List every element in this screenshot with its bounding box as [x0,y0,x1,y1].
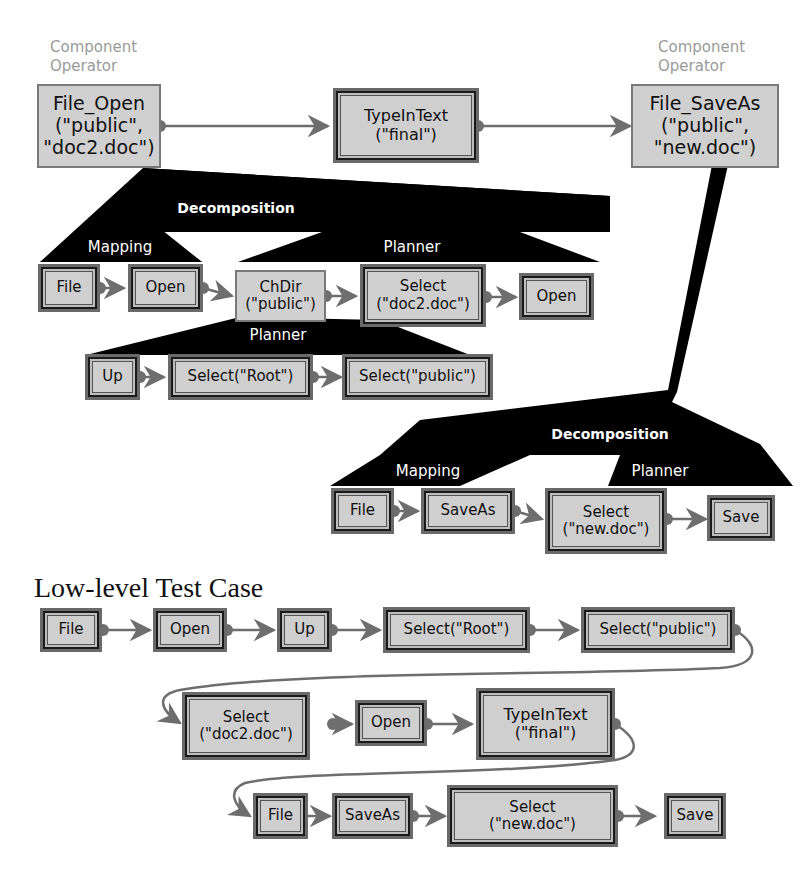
node-label: Select("Root") [404,621,510,638]
node-select-root[interactable]: Select("Root") [168,354,313,400]
node-label: Select("public") [359,368,476,385]
node-label: File [268,807,293,824]
component-operator-label-left: Component Operator [50,38,160,76]
node-file-mapping[interactable]: File [38,264,100,312]
node-file-saveas[interactable]: File_SaveAs ("public", "new.doc") [631,84,779,168]
low-level-test-case-title: Low-level Test Case [34,572,263,604]
node-label: Select("public") [600,621,717,638]
node-label: File [56,279,81,296]
node-label: Select ("new.doc") [489,799,576,834]
mapping-label-2: Mapping [396,462,460,480]
node-label: Up [102,368,123,385]
ll-node-file[interactable]: File [40,608,102,652]
ll-node-save[interactable]: Save [664,793,726,839]
ll-node-select-newdoc[interactable]: Select ("new.doc") [447,785,618,847]
node-label: File_SaveAs ("public", "new.doc") [650,93,761,159]
ll-node-open[interactable]: Open [153,608,227,652]
node-label: Select ("doc2.doc") [199,709,293,744]
node-file-mapping-2[interactable]: File [331,488,394,534]
mapping-label-1: Mapping [88,238,152,256]
node-saveas-mapping[interactable]: SaveAs [421,488,515,534]
node-label: Open [170,621,210,638]
node-open-planner[interactable]: Open [519,273,594,320]
node-select-newdoc[interactable]: Select ("new.doc") [545,488,667,554]
ll-node-saveas[interactable]: SaveAs [332,793,413,839]
planner-label-2: Planner [632,462,689,480]
node-label: TypeInText ("final") [504,706,588,743]
ll-node-select-public[interactable]: Select("public") [581,607,735,653]
node-label: Select("Root") [188,368,294,385]
node-label: TypeInText ("final") [364,107,448,144]
node-label: Open [371,714,411,731]
node-label: File_Open ("public", "doc2.doc") [43,93,154,159]
decomposition-label-2: Decomposition [551,426,668,442]
ll-node-up[interactable]: Up [277,608,332,652]
node-label: ChDir ("public") [245,279,316,314]
node-label: Open [536,288,576,305]
node-label: Select ("new.doc") [563,504,650,539]
node-label: Save [677,807,714,824]
planner-label-chdir: Planner [250,326,307,344]
node-typeintext[interactable]: TypeInText ("final") [333,88,479,163]
node-chdir[interactable]: ChDir ("public") [235,270,326,322]
ll-node-select-doc2[interactable]: Select ("doc2.doc") [182,692,310,760]
node-label: SaveAs [441,502,496,519]
node-label: Save [723,509,760,526]
planner-label-1: Planner [384,238,441,256]
node-label: SaveAs [345,807,400,824]
ll-node-typeintext[interactable]: TypeInText ("final") [476,688,615,760]
node-label: Select ("doc2.doc") [376,278,470,313]
diagram-canvas: Component Operator Component Operator Fi… [0,0,812,885]
node-label: Open [145,279,185,296]
node-label: File [58,621,83,638]
decomposition-label-1: Decomposition [177,200,294,216]
node-file-open[interactable]: File_Open ("public", "doc2.doc") [37,84,161,168]
ll-node-select-root[interactable]: Select("Root") [383,607,530,653]
component-operator-label-right: Component Operator [658,38,768,76]
node-save[interactable]: Save [707,495,775,541]
figure-caption [240,872,580,885]
node-label: Up [294,621,315,638]
ll-node-open-2[interactable]: Open [355,700,427,746]
node-label: File [350,502,375,519]
node-up[interactable]: Up [85,354,140,400]
node-open-mapping[interactable]: Open [128,264,203,312]
node-select-public[interactable]: Select("public") [342,354,493,400]
ll-node-file-2[interactable]: File [253,793,308,839]
node-select-doc2[interactable]: Select ("doc2.doc") [360,264,486,327]
